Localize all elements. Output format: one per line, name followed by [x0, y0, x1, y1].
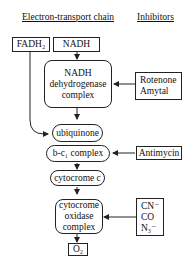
inhibitor-cyanide-co-azide: CN⁻ CO N₃⁻ — [136, 198, 164, 236]
label-line: complex — [62, 90, 95, 101]
node-cytochrome-oxidase-complex: cytocrome oxidase complex — [55, 199, 103, 234]
label-line: cytocrome — [59, 200, 99, 211]
inhibitor-rotenone: Rotenone — [140, 75, 176, 86]
node-nadh-dehydrogenase-complex: NADH dehydrogenase complex — [44, 60, 112, 108]
node-cytochrome-c: cytocrome c — [50, 170, 105, 186]
node-nadh: NADH — [53, 37, 100, 52]
label-line: oxidase — [64, 211, 93, 222]
inhibitor-amytal: Amytal — [140, 86, 169, 97]
node-ubiquinone: ubiquinone — [52, 124, 103, 142]
inhibitor-azide: N₃⁻ — [141, 223, 156, 234]
inhibitor-cyanide: CN⁻ — [141, 201, 159, 212]
inhibitor-rotenone-amytal: Rotenone Amytal — [135, 72, 182, 100]
label-line: NADH — [64, 68, 91, 79]
inhibitor-antimycin: Antimycin — [136, 146, 182, 160]
label-line: dehydrogenase — [50, 79, 107, 90]
node-o2: O₂ — [68, 243, 88, 256]
node-bc1-complex: b-c₁ complex — [46, 145, 110, 162]
label-line: complex — [63, 222, 96, 233]
node-fadh2: FADH₂ — [12, 37, 50, 52]
inhibitor-carbon-monoxide: CO — [141, 212, 154, 223]
